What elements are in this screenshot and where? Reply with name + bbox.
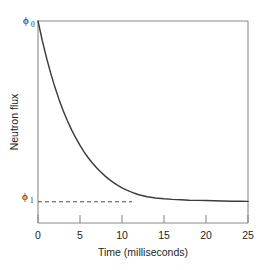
y-axis-title: Neutron flux	[8, 93, 20, 150]
x-tick-label-0: 0	[35, 229, 41, 241]
chart-canvas: 0 5 10 15 20 25 Time (milliseconds) Neut…	[0, 0, 260, 270]
y-level-label-phi0: ϕ 0	[23, 14, 35, 29]
y-level-label-phi1: ϕ 1	[22, 190, 34, 205]
x-tick-label-15: 15	[158, 229, 170, 241]
x-tick-label-5: 5	[77, 229, 83, 241]
phi0-symbol: ϕ	[23, 14, 29, 26]
neutron-flux-figure: 0 5 10 15 20 25 Time (milliseconds) Neut…	[0, 0, 260, 270]
phi1-symbol: ϕ	[22, 190, 28, 202]
phi1-subscript: 1	[30, 196, 34, 205]
phi0-subscript: 0	[31, 20, 35, 29]
x-tick-label-10: 10	[116, 229, 128, 241]
x-tick-label-20: 20	[200, 229, 212, 241]
neutron-flux-curve	[38, 21, 248, 201]
x-axis-title: Time (milliseconds)	[98, 246, 188, 258]
x-axis-ticks	[38, 215, 248, 223]
x-tick-labels: 0 5 10 15 20 25	[35, 229, 254, 241]
x-tick-label-25: 25	[242, 229, 254, 241]
